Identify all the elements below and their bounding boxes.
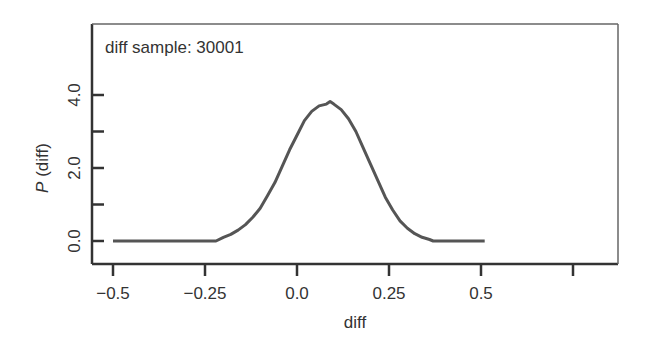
y-tick-label: 2.0 [65, 156, 84, 180]
density-line [113, 102, 485, 241]
x-tick-label: −0.25 [183, 284, 226, 303]
plot-frame [92, 24, 618, 264]
sample-annotation: diff sample: 30001 [105, 38, 244, 57]
y-tick-label: 4.0 [65, 83, 84, 107]
x-axis-title: diff [344, 313, 367, 332]
y-axis-ticks: 0.02.04.0 [65, 83, 104, 253]
y-tick-label: 0.0 [65, 229, 84, 253]
x-tick-label: 0.5 [469, 284, 493, 303]
density-chart: −0.5−0.250.00.250.5 0.02.04.0 diff sampl… [0, 0, 650, 344]
x-axis-ticks: −0.5−0.250.00.250.5 [96, 264, 573, 303]
y-axis-title-rest: (diff) [33, 143, 52, 181]
y-axis-title: P (diff) [33, 143, 52, 193]
x-tick-label: 0.25 [372, 284, 405, 303]
y-axis-title-italic: P [33, 181, 52, 193]
x-tick-label: 0.0 [285, 284, 309, 303]
x-tick-label: −0.5 [96, 284, 130, 303]
